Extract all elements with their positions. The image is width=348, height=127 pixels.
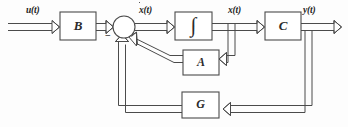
signal-label-xdot: x(t) xyxy=(139,5,152,15)
wire-y-branch-to-g xyxy=(223,31,312,116)
summing-junction-minus-sign: − xyxy=(105,31,111,41)
wire-x-branch-to-a xyxy=(219,24,235,66)
block-label-C: C xyxy=(265,19,301,32)
wire-g-to-sum xyxy=(116,35,183,113)
wire-sum-to-integrator xyxy=(135,21,175,34)
xdot-variable: x xyxy=(139,5,144,15)
signal-label-y: y(t) xyxy=(303,5,315,15)
block-diagram-canvas: B ∫ C A G u(t) x(t) x(t) y(t) − xyxy=(0,0,348,127)
signal-label-x: x(t) xyxy=(228,5,241,15)
block-label-B: B xyxy=(60,19,96,32)
xdot-base: x xyxy=(139,5,144,15)
summing-junction-circle xyxy=(113,16,135,38)
block-label-integrator: ∫ xyxy=(175,15,212,36)
xdot-suffix: (t) xyxy=(144,5,152,15)
wire-u-to-b xyxy=(8,21,60,34)
block-label-G: G xyxy=(182,98,219,110)
wire-c-to-output xyxy=(301,21,342,34)
wire-integrator-to-c xyxy=(212,21,265,34)
block-label-A: A xyxy=(183,56,219,68)
signal-label-u: u(t) xyxy=(26,5,39,15)
